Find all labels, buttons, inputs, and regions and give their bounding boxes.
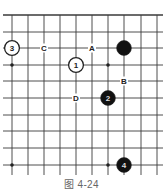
star-point xyxy=(106,63,110,67)
stone-number: 1 xyxy=(74,61,79,70)
stone-number: 4 xyxy=(122,161,127,170)
position-markers: CABD xyxy=(40,44,128,104)
black-stone xyxy=(117,41,132,56)
board-grid xyxy=(3,15,163,175)
star-point xyxy=(10,63,14,67)
marker-b: B xyxy=(121,77,127,86)
marker-c: C xyxy=(41,44,47,53)
figure-caption: 图 4-24 xyxy=(0,176,163,189)
star-point xyxy=(10,163,14,167)
stone-number: 3 xyxy=(10,44,15,53)
stones: 3124 xyxy=(5,41,132,173)
marker-a: A xyxy=(89,44,95,53)
marker-d: D xyxy=(73,94,79,103)
star-point xyxy=(106,163,110,167)
stone-number: 2 xyxy=(106,94,111,103)
go-board-diagram: CABD 3124 xyxy=(0,0,163,175)
